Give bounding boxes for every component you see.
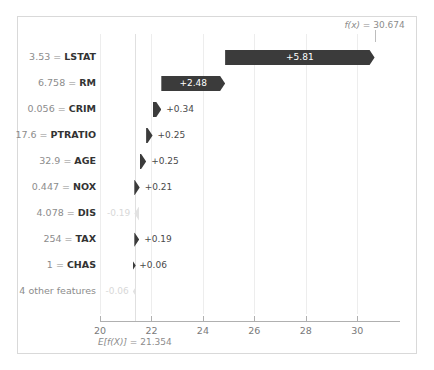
feature-label: 0.447 = NOX	[0, 174, 96, 200]
feature-value: 17.6 =	[15, 129, 50, 140]
shap-waterfall-figure: 3.53 = LSTAT+5.816.758 = RM+2.480.056 = …	[0, 0, 434, 370]
feature-label: 1 = CHAS	[0, 252, 96, 278]
feature-value: 3.53 =	[29, 51, 64, 62]
plot-area: 3.53 = LSTAT+5.816.758 = RM+2.480.056 = …	[0, 0, 434, 370]
feature-value: 0.056 =	[28, 103, 69, 114]
feature-label: 254 = TAX	[0, 226, 96, 252]
bar-value-label: +2.48	[161, 76, 225, 91]
bar-value-label: +0.19	[144, 232, 172, 247]
feature-name: DIS	[78, 207, 96, 218]
x-tick-label: 30	[351, 325, 363, 336]
feature-name: LSTAT	[64, 51, 96, 62]
waterfall-row: 4 other features-0.06	[0, 278, 434, 304]
base-value-annotation: E[f(X)] = 21.354	[98, 337, 172, 347]
shap-bar	[134, 232, 139, 247]
x-tick	[151, 316, 152, 322]
shap-bar	[140, 154, 146, 169]
waterfall-row: 254 = TAX+0.19	[0, 226, 434, 252]
x-tick-label: 20	[94, 325, 106, 336]
shap-bar	[134, 206, 139, 221]
waterfall-row: 1 = CHAS+0.06	[0, 252, 434, 278]
feature-label: 17.6 = PTRATIO	[0, 122, 96, 148]
feature-name: TAX	[76, 233, 96, 244]
waterfall-row: 0.447 = NOX+0.21	[0, 174, 434, 200]
x-tick	[357, 316, 358, 322]
waterfall-row: 3.53 = LSTAT+5.81	[0, 44, 434, 70]
x-axis-line	[100, 321, 400, 322]
output-value-annotation: f(x) = 30.674	[344, 20, 404, 30]
feature-name: PTRATIO	[51, 129, 96, 140]
feature-name: RM	[79, 77, 96, 88]
ef-value: = 21.354	[127, 337, 172, 347]
feature-name: AGE	[74, 155, 96, 166]
feature-label: 6.758 = RM	[0, 70, 96, 96]
bar-value-label: +0.06	[139, 258, 167, 273]
x-tick	[254, 316, 255, 322]
x-tick-label: 22	[145, 325, 157, 336]
feature-label: 3.53 = LSTAT	[0, 44, 96, 70]
bar-value-label: +0.21	[145, 180, 173, 195]
x-tick-label: 26	[248, 325, 260, 336]
bar-value-label: +5.81	[225, 50, 374, 65]
waterfall-row: 4.078 = DIS-0.19	[0, 200, 434, 226]
ef-prefix: E[f(X)]	[98, 337, 127, 347]
shap-bar	[153, 102, 162, 117]
shap-bar	[133, 284, 136, 299]
feature-name: CRIM	[69, 103, 96, 114]
feature-value: 254 =	[43, 233, 75, 244]
feature-label: 4.078 = DIS	[0, 200, 96, 226]
feature-value: 6.758 =	[38, 77, 79, 88]
waterfall-row: 6.758 = RM+2.48	[0, 70, 434, 96]
fx-prefix: f(x)	[344, 20, 360, 30]
feature-value: 32.9 =	[39, 155, 74, 166]
feature-label: 4 other features	[0, 278, 96, 304]
waterfall-row: 32.9 = AGE+0.25	[0, 148, 434, 174]
feature-value: 1 =	[47, 259, 67, 270]
x-tick	[306, 316, 307, 322]
output-value-line	[375, 30, 376, 42]
bar-value-label: +0.34	[166, 102, 194, 117]
feature-value: 0.447 =	[32, 181, 73, 192]
feature-label: 0.056 = CRIM	[0, 96, 96, 122]
feature-label: 32.9 = AGE	[0, 148, 96, 174]
waterfall-row: 17.6 = PTRATIO+0.25	[0, 122, 434, 148]
x-tick	[100, 316, 101, 322]
feature-name: NOX	[73, 181, 96, 192]
x-tick-label: 24	[197, 325, 209, 336]
x-tick-label: 28	[300, 325, 312, 336]
bar-value-label: -0.06	[103, 284, 129, 299]
shap-bar	[146, 128, 152, 143]
bar-value-label: +0.25	[158, 128, 186, 143]
waterfall-row: 0.056 = CRIM+0.34	[0, 96, 434, 122]
bar-value-label: -0.19	[104, 206, 130, 221]
feature-value: 4.078 =	[37, 207, 78, 218]
x-tick	[203, 316, 204, 322]
bar-value-label: +0.25	[151, 154, 179, 169]
shap-bar	[133, 258, 136, 273]
shap-bar	[134, 180, 139, 195]
feature-name: CHAS	[67, 259, 96, 270]
fx-value: = 30.674	[360, 20, 405, 30]
